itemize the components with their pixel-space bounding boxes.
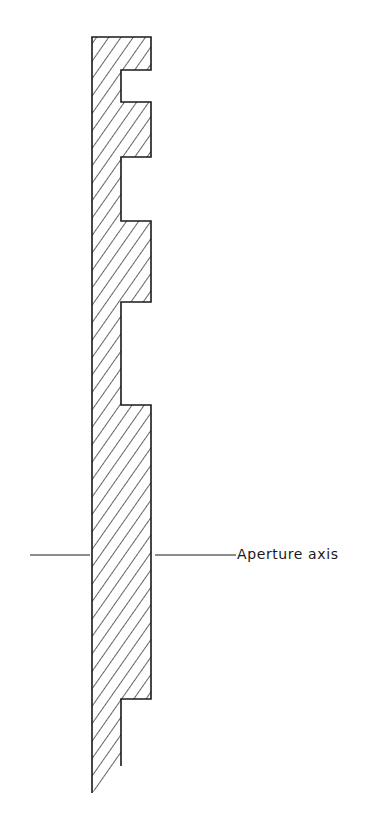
aperture-axis-label: Aperture axis bbox=[237, 546, 339, 562]
hatched-section bbox=[85, 30, 160, 800]
aperture-cross-section-diagram bbox=[0, 0, 384, 827]
